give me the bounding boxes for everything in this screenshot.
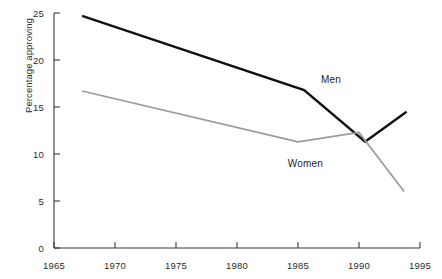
x-tick-label: 1990 xyxy=(348,260,370,271)
axis-lines xyxy=(54,13,420,248)
series-line-women xyxy=(82,91,404,192)
x-tick-label: 1975 xyxy=(165,260,187,271)
y-tick-label: 5 xyxy=(14,196,44,207)
series-annotation-women: Women xyxy=(288,158,323,169)
y-axis-ticks xyxy=(54,13,60,248)
y-axis-title: Percentage approving xyxy=(23,0,34,141)
y-tick-label: 0 xyxy=(14,243,44,254)
series-line-men xyxy=(82,16,407,142)
y-tick-label: 25 xyxy=(14,8,44,19)
x-tick-label: 1965 xyxy=(43,260,65,271)
x-axis-ticks xyxy=(54,242,420,248)
data-series-group xyxy=(82,16,407,192)
y-tick-label: 15 xyxy=(14,102,44,113)
x-tick-label: 1980 xyxy=(226,260,248,271)
x-tick-label: 1970 xyxy=(104,260,126,271)
series-annotation-men: Men xyxy=(321,73,341,84)
y-tick-label: 20 xyxy=(14,55,44,66)
plot-area xyxy=(0,0,442,279)
line-chart: Percentage approving 0510152025 19651970… xyxy=(0,0,442,279)
x-tick-label: 1985 xyxy=(287,260,309,271)
x-tick-label: 1995 xyxy=(409,260,431,271)
y-tick-label: 10 xyxy=(14,149,44,160)
